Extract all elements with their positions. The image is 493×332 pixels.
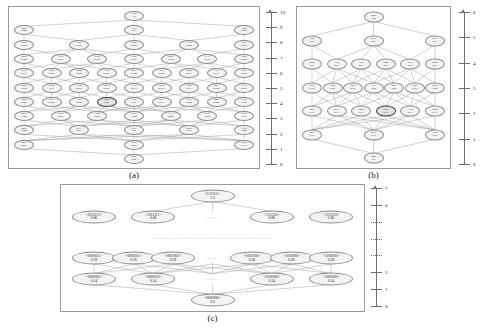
axis-tick <box>371 255 382 256</box>
figure-root: <345>1.0<045>0.842<135>0.911<144>0.905<0… <box>0 0 493 332</box>
lattice-node: <120>0.50 <box>405 82 425 93</box>
lattice-node: <003>0.40 <box>14 111 34 121</box>
lattice-edge <box>361 45 373 60</box>
lattice-node: <0100000>0.14 <box>250 273 294 286</box>
lattice-node: <1111101>0.86 <box>250 210 294 223</box>
axis-tick <box>266 149 277 150</box>
lattice-node: <001>0.16 <box>302 129 322 140</box>
axis-tick <box>371 239 382 240</box>
lattice-node: <041>0.600 <box>207 83 227 93</box>
node-value: 0.686 <box>104 73 110 76</box>
lattice-edge <box>24 149 134 155</box>
panel-c-axis: 01267 <box>368 188 398 306</box>
node-value: 0.800 <box>131 45 137 48</box>
node-value: 0.517 <box>159 102 165 105</box>
lattice-node: <010>0.16 <box>364 129 384 140</box>
lattice-node: <015>0.717 <box>14 68 34 78</box>
lattice-node: <200>0.33 <box>425 106 445 117</box>
lattice-node: <121>0.67 <box>351 59 371 70</box>
lattice-edge <box>337 45 374 60</box>
lattice-edge <box>312 45 337 60</box>
node-value: 0.0 <box>372 158 375 161</box>
node-value: 0.167 <box>186 130 192 133</box>
node-value: 0.061 <box>131 145 137 148</box>
node-value: 0.14 <box>269 279 275 283</box>
panel-b-lattice: <222>1.00<122>0.83<212>0.83<221>0.83<022… <box>296 6 451 169</box>
lattice-node: <100>0.16 <box>425 129 445 140</box>
lattice-edge <box>94 285 213 295</box>
lattice-node: <045>0.842 <box>14 25 34 35</box>
lattice-node: <201>0.50 <box>384 82 404 93</box>
lattice-edge <box>361 92 373 107</box>
node-value: 0.600 <box>214 88 220 91</box>
lattice-edge <box>312 92 333 107</box>
node-value: 0.86 <box>150 217 156 221</box>
node-value: 0.61 <box>49 88 54 91</box>
lattice-node: <042>0.667 <box>179 68 199 78</box>
lattice-edge <box>312 116 361 131</box>
lattice-edge <box>415 69 436 84</box>
node-value: 0.540 <box>76 102 82 105</box>
node-value: 0.33 <box>433 111 438 114</box>
node-value: 0.747 <box>49 73 55 76</box>
lattice-node: <103>0.540 <box>69 97 89 107</box>
node-ellipsis: ······ <box>207 277 219 282</box>
node-value: 0.808 <box>241 59 247 62</box>
axis-tick <box>459 113 470 114</box>
lattice-node: <211>0.67 <box>400 59 420 70</box>
node-value: 0.33 <box>310 111 315 114</box>
panel-c-caption: (c) <box>60 313 365 323</box>
node-value: 0.16 <box>371 135 376 138</box>
node-value: 0.33 <box>384 111 389 114</box>
axis-tick <box>266 27 277 28</box>
node-value: 0.762 <box>168 59 174 62</box>
node-value: 0.50 <box>392 88 397 91</box>
lattice-edge <box>24 49 79 55</box>
node-value: 0.700 <box>159 73 165 76</box>
lattice-node: <110>0.42 <box>234 125 254 135</box>
lattice-node: <1011111>0.86 <box>131 210 175 223</box>
node-value: 0.133 <box>241 145 247 148</box>
node-value: 0.097 <box>21 145 27 148</box>
axis-tick <box>266 58 277 59</box>
axis-tick <box>459 12 470 13</box>
lattice-node: <102>0.50 <box>323 82 343 93</box>
axis-tick-label: 5 <box>280 86 283 91</box>
lattice-node: <134>0.850 <box>179 40 199 50</box>
lattice-node: <0000010>0.14 <box>131 273 175 286</box>
lattice-node: <112>0.67 <box>327 59 347 70</box>
lattice-node: <030>0.20 <box>197 111 217 121</box>
node-value: 0.16 <box>433 135 438 138</box>
lattice-node: <102>0.467 <box>87 111 107 121</box>
lattice-edge <box>394 69 410 84</box>
node-value: 0.500 <box>214 102 220 105</box>
axis-tick-label: 3 <box>280 116 283 121</box>
lattice-node: <011>0.33 <box>327 106 347 117</box>
node-value: 0.911 <box>131 30 137 33</box>
lattice-edge <box>374 69 386 84</box>
node-value: 0.83 <box>371 41 376 44</box>
node-value: 0.797 <box>131 59 137 62</box>
axis-tick <box>266 88 277 89</box>
axis-tick-label: 1 <box>280 146 283 151</box>
panel-a-axis: 012345678910 <box>263 12 293 164</box>
lattice-node: <120>0.38 <box>234 111 254 121</box>
lattice-node: <010>0.061 <box>124 140 144 150</box>
lattice-node: <105>0.747 <box>42 68 62 78</box>
node-value: 1.0 <box>210 196 215 200</box>
lattice-node: <0000000>0.0 <box>191 294 235 307</box>
node-value: 0.841 <box>76 45 82 48</box>
axis-tick-label: 5 <box>473 35 476 40</box>
lattice-edge <box>353 69 386 84</box>
lattice-edge <box>337 92 353 107</box>
lattice-node: <110>0.33 <box>400 106 420 117</box>
lattice-edge <box>374 45 411 60</box>
axis-tick-label: 3 <box>473 86 476 91</box>
lattice-node: <130>0.50 <box>234 97 254 107</box>
lattice-node: <011>0.21 <box>69 125 89 135</box>
lattice-edge <box>24 34 79 40</box>
axis-tick-label: 8 <box>280 40 283 45</box>
lattice-node: <034>0.757 <box>87 54 107 64</box>
lattice-edge <box>374 92 386 107</box>
axis-tick-label: 0 <box>473 162 476 167</box>
